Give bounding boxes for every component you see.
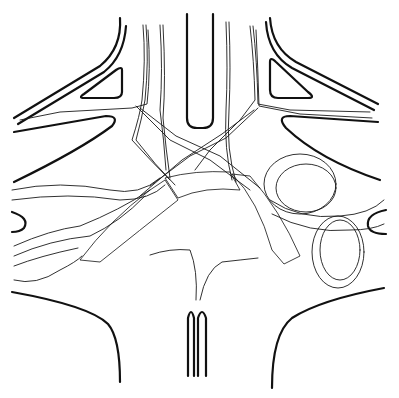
fiber-bundle-right	[195, 22, 372, 182]
right-triangle	[270, 59, 312, 98]
dense-arbor-right	[232, 174, 300, 264]
crossing-fibers	[12, 106, 260, 300]
dense-arbor-left	[80, 180, 178, 262]
right-upper-outline	[270, 18, 378, 104]
fiber-bundle-left	[20, 25, 175, 185]
dense-arbor-center	[165, 172, 240, 198]
right-notch	[368, 210, 386, 234]
left-notch	[12, 212, 26, 232]
bottom-right-outline	[272, 288, 384, 388]
illustration	[0, 0, 399, 398]
left-lower-outline	[14, 116, 115, 182]
central-column-outline	[187, 14, 213, 128]
right-lower-outline	[282, 116, 380, 180]
neuroanatomy-drawing	[0, 0, 399, 398]
bottom-left-outline	[12, 292, 120, 382]
left-upper-outline	[14, 18, 120, 118]
bottom-stalk	[188, 312, 206, 376]
right-upper-inner	[266, 22, 374, 110]
